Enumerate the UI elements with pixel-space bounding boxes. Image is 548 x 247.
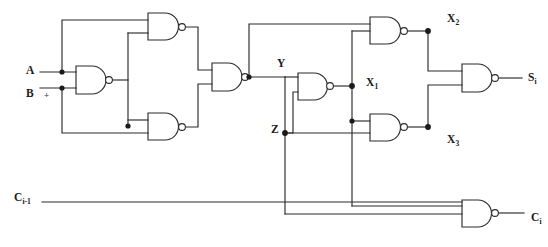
- node-label-y: Y: [277, 58, 286, 70]
- wire-group: [40, 20, 524, 214]
- wire-b-branch-to-nand3: [62, 88, 148, 133]
- junction-b: [59, 85, 64, 90]
- nand-gate-bottom-left[interactable]: [148, 113, 185, 140]
- junction-z: [282, 130, 288, 136]
- input-label-a: A: [26, 65, 35, 77]
- junction-nand1-bus: [125, 123, 130, 128]
- nand-gate-x3[interactable]: [370, 114, 407, 141]
- wire-z-to-nand5: [285, 92, 298, 133]
- wire-a-branch-to-nand2: [62, 20, 148, 72]
- plus-annotation: +: [44, 90, 49, 100]
- input-label-cin: Ci-1: [14, 192, 31, 204]
- nand-gate-carry[interactable]: [462, 200, 498, 227]
- nand-gate-top[interactable]: [148, 13, 185, 40]
- junction-x1: [349, 83, 355, 89]
- nand-gate-sum[interactable]: [462, 64, 498, 92]
- wire-x2-to-sum-gate: [428, 31, 462, 71]
- nand-gate-ab[interactable]: [76, 66, 112, 94]
- wire-nand2-to-nand4: [186, 27, 212, 70]
- junction-y: [246, 74, 251, 79]
- wire-x3-to-sum-gate: [428, 85, 462, 127]
- node-label-x2: X2: [447, 13, 459, 25]
- node-label-x1: X1: [366, 77, 378, 89]
- input-label-b: B: [26, 88, 34, 100]
- wire-nand3-to-nand4: [186, 84, 212, 127]
- output-label-sum: Si: [528, 72, 537, 84]
- junction-x1-lower: [349, 118, 354, 123]
- output-label-carry: Ci: [531, 212, 542, 224]
- nand-gate-x1[interactable]: [298, 73, 333, 100]
- junction-a: [59, 69, 64, 74]
- node-label-x3: X3: [447, 134, 459, 146]
- nand-gate-y[interactable]: [212, 63, 248, 91]
- junction-x3: [425, 124, 431, 130]
- circuit-diagram-canvas: A B + Ci-1 Y Z X1 X2 X3 Si Ci: [0, 0, 548, 247]
- node-label-z: Z: [271, 124, 279, 136]
- nand-gate-x2[interactable]: [370, 17, 407, 44]
- junction-x2: [425, 28, 431, 34]
